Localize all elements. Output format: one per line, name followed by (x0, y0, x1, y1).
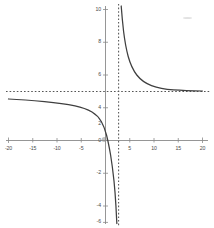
x-tick-label-15: 15 (175, 146, 181, 151)
y-tick-label-4: 4 (92, 105, 101, 110)
plot-area (0, 0, 214, 228)
x-intercept-marker (102, 137, 107, 142)
function-graph: -20 -15 -10 -5 5 10 15 20 10 8 6 4 2 0 -… (0, 0, 214, 228)
x-tick-label-neg15: -15 (29, 146, 36, 151)
x-tick-label-5: 5 (128, 146, 131, 151)
x-tick-label-neg5: -5 (79, 146, 83, 151)
y-tick-label-neg6: -6 (90, 220, 101, 225)
y-tick-label-6: 6 (92, 72, 101, 77)
y-tick-label-10: 10 (92, 7, 101, 12)
y-tick-label-0: 0 (92, 138, 101, 143)
y-tick-label-neg4: -4 (90, 203, 101, 208)
scan-artifact-smudge (183, 17, 192, 19)
y-tick-label-neg2: -2 (90, 171, 101, 176)
x-tick-label-neg20: -20 (5, 146, 12, 151)
y-tick-label-2: 2 (92, 122, 101, 127)
x-tick-label-10: 10 (151, 146, 157, 151)
x-tick-label-20: 20 (200, 146, 206, 151)
x-tick-label-neg10: -10 (53, 146, 60, 151)
y-tick-label-8: 8 (92, 40, 101, 45)
